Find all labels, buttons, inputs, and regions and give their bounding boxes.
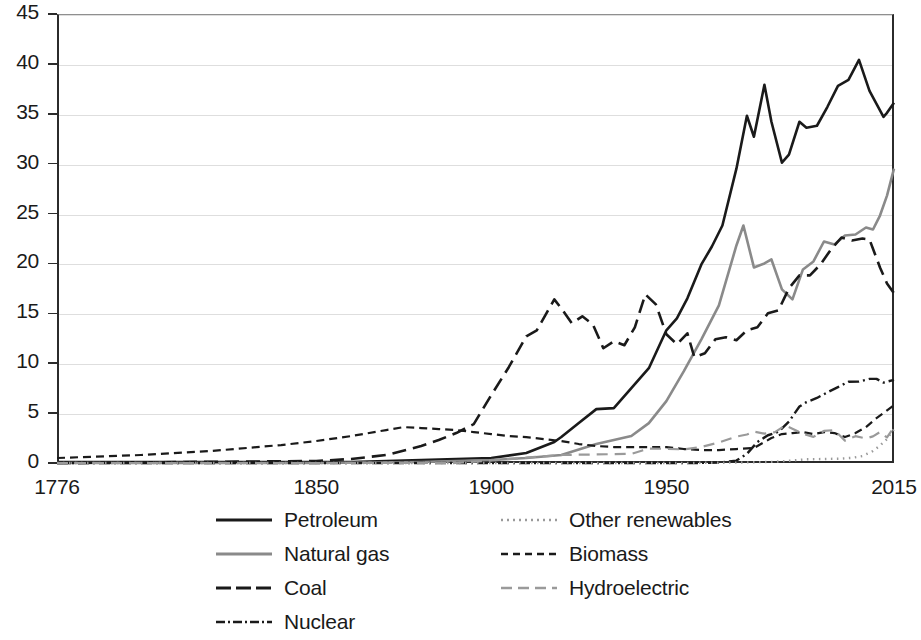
x-axis-tick-label: 1776	[12, 475, 102, 499]
legend-swatch-icon	[500, 547, 558, 561]
legend-swatch-icon	[500, 513, 558, 527]
y-axis-tick-label: 0	[1, 449, 39, 473]
y-axis-tick-mark	[48, 13, 57, 15]
y-axis-tick-mark	[48, 362, 57, 364]
y-axis-tick-mark	[48, 412, 57, 414]
legend-swatch-icon	[500, 581, 558, 595]
legend-item-label: Other renewables	[569, 508, 732, 532]
y-axis-tick-mark	[48, 263, 57, 265]
y-axis-tick-mark	[48, 462, 57, 464]
y-axis-tick-mark	[48, 113, 57, 115]
x-axis-tick-label: 1950	[621, 475, 711, 499]
legend-swatch-icon	[215, 547, 273, 561]
legend-swatch-icon	[215, 615, 273, 629]
legend-item-nuclear[interactable]: Nuclear	[215, 605, 389, 639]
legend-column-left: PetroleumNatural gasCoalNuclear	[215, 503, 389, 639]
series-line-biomass	[57, 405, 894, 458]
legend-item-label: Hydroelectric	[569, 576, 689, 600]
legend-column-right: Other renewablesBiomassHydroelectric	[500, 503, 732, 605]
legend-item-label: Coal	[284, 576, 326, 600]
y-axis-tick-mark	[48, 313, 57, 315]
legend-item-coal[interactable]: Coal	[215, 571, 389, 605]
y-axis-tick-mark	[48, 163, 57, 165]
y-axis-tick-label: 5	[1, 399, 39, 423]
x-axis-tick-label: 1850	[271, 475, 361, 499]
legend-item-petroleum[interactable]: Petroleum	[215, 503, 389, 537]
legend-item-natural-gas[interactable]: Natural gas	[215, 537, 389, 571]
y-axis-tick-label: 10	[1, 349, 39, 373]
series-line-coal	[57, 238, 894, 464]
legend-item-label: Biomass	[569, 542, 648, 566]
legend-item-hydroelectric[interactable]: Hydroelectric	[500, 571, 732, 605]
legend-item-biomass[interactable]: Biomass	[500, 537, 732, 571]
legend-item-label: Natural gas	[284, 542, 389, 566]
legend-item-other-renewables[interactable]: Other renewables	[500, 503, 732, 537]
y-axis-tick-label: 40	[1, 50, 39, 74]
legend-item-label: Petroleum	[284, 508, 378, 532]
y-axis-tick-mark	[48, 213, 57, 215]
chart-legend: PetroleumNatural gasCoalNuclear Other re…	[0, 503, 914, 640]
y-axis-tick-label: 45	[1, 0, 39, 24]
plot-area: 05101520253035404517761850190019502015	[0, 0, 914, 500]
y-axis-tick-mark	[48, 63, 57, 65]
series-layer	[0, 0, 914, 500]
x-axis-tick-label: 1900	[446, 475, 536, 499]
legend-swatch-icon	[215, 513, 273, 527]
y-axis-tick-label: 25	[1, 200, 39, 224]
y-axis-tick-label: 35	[1, 100, 39, 124]
x-axis-tick-label: 2015	[849, 475, 921, 499]
y-axis-tick-label: 15	[1, 299, 39, 323]
legend-item-label: Nuclear	[284, 610, 355, 634]
y-axis-tick-label: 20	[1, 249, 39, 273]
legend-swatch-icon	[215, 581, 273, 595]
y-axis-tick-label: 30	[1, 150, 39, 174]
